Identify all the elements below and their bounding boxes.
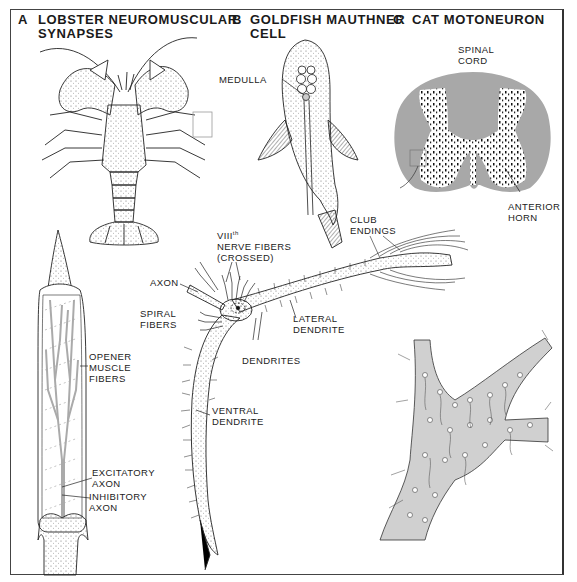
label-viii-line1: VIII bbox=[217, 230, 233, 241]
label-spinal-cord: SPINALCORD bbox=[458, 44, 494, 66]
label-opener-line2: MUSCLE bbox=[89, 362, 131, 373]
label-spiral-line2: FIBERS bbox=[140, 319, 177, 330]
label-ventral-line1: VENTRAL bbox=[212, 405, 259, 416]
motoneuron-illustration bbox=[380, 330, 553, 540]
label-lateral-line1: LATERAL bbox=[293, 313, 337, 324]
label-inhibitory-line2: AXON bbox=[89, 502, 118, 513]
opener-muscle-illustration bbox=[38, 230, 92, 575]
label-club-line2: ENDINGS bbox=[350, 225, 396, 236]
label-opener-line1: OPENER bbox=[89, 351, 132, 362]
label-ventral-line2: DENDRITE bbox=[212, 416, 264, 427]
label-spinal-line2: CORD bbox=[458, 55, 488, 66]
label-lateral-dendrite: LATERALDENDRITE bbox=[293, 313, 345, 335]
label-viii-superscript: th bbox=[233, 230, 239, 236]
label-excitatory-line2: AXON bbox=[92, 478, 121, 489]
label-club-line1: CLUB bbox=[350, 214, 377, 225]
goldfish-illustration bbox=[258, 40, 358, 248]
label-spinal-line1: SPINAL bbox=[458, 44, 494, 55]
label-opener-line3: FIBERS bbox=[89, 373, 126, 384]
spinal-cord-illustration bbox=[394, 72, 550, 192]
label-lateral-line2: DENDRITE bbox=[293, 324, 345, 335]
label-viii-line2: NERVE FIBERS bbox=[217, 241, 291, 252]
label-anterior-line1: ANTERIOR bbox=[508, 201, 560, 212]
label-viii-nerve-fibers: VIIIthNERVE FIBERS(CROSSED) bbox=[217, 228, 291, 263]
label-spiral-fibers: SPIRALFIBERS bbox=[140, 308, 177, 330]
label-medulla: MEDULLA bbox=[219, 74, 267, 85]
label-excitatory-axon: EXCITATORYAXON bbox=[92, 467, 155, 489]
label-viii-line3: (CROSSED) bbox=[217, 252, 274, 263]
label-axon: AXON bbox=[150, 277, 179, 288]
label-inhibitory-axon: INHIBITORYAXON bbox=[89, 491, 147, 513]
label-spiral-line1: SPIRAL bbox=[140, 308, 176, 319]
label-excitatory-line1: EXCITATORY bbox=[92, 467, 155, 478]
label-inhibitory-line1: INHIBITORY bbox=[89, 491, 147, 502]
label-anterior-horn: ANTERIORHORN bbox=[508, 201, 560, 223]
label-club-endings: CLUBENDINGS bbox=[350, 214, 396, 236]
label-opener-muscle-fibers: OPENERMUSCLEFIBERS bbox=[89, 351, 132, 384]
lobster-illustration bbox=[40, 38, 212, 245]
label-dendrites: DENDRITES bbox=[242, 355, 301, 366]
label-anterior-line2: HORN bbox=[508, 212, 538, 223]
label-ventral-dendrite: VENTRALDENDRITE bbox=[212, 405, 264, 427]
